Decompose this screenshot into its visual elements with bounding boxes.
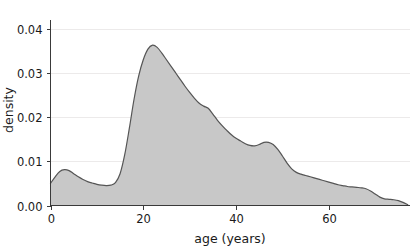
x-axis-title: age (years) xyxy=(194,231,265,246)
x-tick-label: 40 xyxy=(229,212,244,226)
y-axis-title: density xyxy=(1,86,16,132)
x-tick-label: 60 xyxy=(322,212,337,226)
y-tick-label: 0.01 xyxy=(17,155,43,169)
y-tick-group: 0.000.010.020.030.04 xyxy=(17,23,51,214)
density-area xyxy=(51,45,408,205)
chart-canvas: 0204060 0.000.010.020.030.04 age (years)… xyxy=(0,0,413,251)
x-tick-label: 0 xyxy=(48,212,55,226)
density-chart: 0204060 0.000.010.020.030.04 age (years)… xyxy=(0,0,413,251)
x-tick-group: 0204060 xyxy=(48,206,337,226)
y-tick-label: 0.03 xyxy=(17,67,43,81)
y-tick-label: 0.00 xyxy=(17,200,43,214)
y-tick-label: 0.04 xyxy=(17,23,43,37)
x-tick-label: 20 xyxy=(136,212,151,226)
y-tick-label: 0.02 xyxy=(17,111,43,125)
